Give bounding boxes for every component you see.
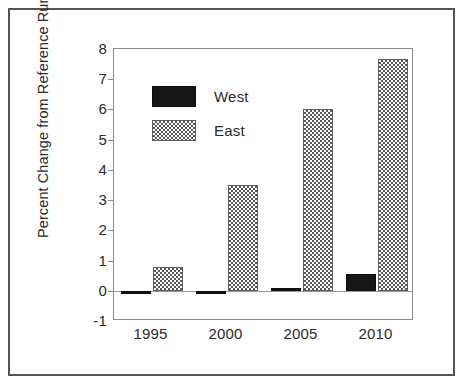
- y-axis-tick-label: 2: [98, 222, 107, 237]
- x-axis-tick-label-1995: 1995: [133, 326, 167, 341]
- y-axis-tick-label: 4: [98, 162, 107, 177]
- plot-area: WestEast: [113, 48, 413, 320]
- bar-east-2005[interactable]: [303, 109, 333, 290]
- chart-figure: Percent Change from Reference Run 876543…: [0, 0, 465, 386]
- bar-east-1995[interactable]: [153, 267, 183, 291]
- y-axis-tick-label: 3: [98, 192, 107, 207]
- bar-west-2000[interactable]: [196, 291, 226, 294]
- y-axis-tick-label: 0: [98, 283, 107, 298]
- legend-label: West: [214, 88, 249, 105]
- legend-label: East: [214, 122, 245, 139]
- x-axis-tick-label-2000: 2000: [208, 326, 242, 341]
- y-axis-tick-label: 6: [98, 101, 107, 116]
- y-axis-tick-label: 7: [98, 71, 107, 86]
- bar-east-2010[interactable]: [378, 59, 408, 291]
- legend-item-west[interactable]: West: [152, 79, 302, 113]
- bar-west-2005[interactable]: [271, 288, 301, 291]
- legend-swatch-east-icon: [152, 120, 196, 141]
- chart-legend: WestEast: [152, 79, 302, 147]
- legend-item-east[interactable]: East: [152, 113, 302, 147]
- y-axis-title: Percent Change from Reference Run: [35, 8, 51, 238]
- x-axis-tick-label-2005: 2005: [283, 326, 317, 341]
- y-axis-tick-label: -1: [93, 313, 107, 328]
- x-axis-tick-labels: 1995200020052010: [113, 326, 413, 350]
- y-axis-tick-label: 8: [98, 41, 107, 56]
- legend-swatch-west-icon: [152, 86, 196, 107]
- y-axis-tick-labels: 876543210-1: [78, 48, 107, 320]
- bar-west-2010[interactable]: [346, 274, 376, 291]
- y-axis-tick-label: 1: [98, 253, 107, 268]
- x-axis-tick-label-2010: 2010: [358, 326, 392, 341]
- bar-east-2000[interactable]: [228, 185, 258, 291]
- bar-west-1995[interactable]: [121, 291, 151, 294]
- y-axis-tick-label: 5: [98, 132, 107, 147]
